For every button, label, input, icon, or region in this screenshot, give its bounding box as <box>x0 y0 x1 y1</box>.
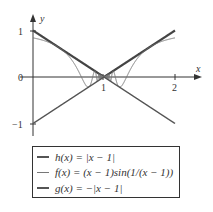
legend-item-g: g(x) = −|x − 1| <box>37 180 175 196</box>
legend-swatch-g <box>37 187 49 189</box>
y-tick-0: 0 <box>18 72 23 83</box>
x-axis-label: x <box>195 63 201 74</box>
x-tick-2: 2 <box>172 82 177 93</box>
f-curve <box>33 38 175 87</box>
chart-legend: h(x) = |x − 1| f(x) = (x − 1)sin(1/(x − … <box>32 146 180 198</box>
legend-swatch-h <box>37 156 49 158</box>
chart-plot-area: y x 1 2 1 0 −1 <box>0 0 213 145</box>
h-curve <box>33 31 175 78</box>
legend-item-f: f(x) = (x − 1)sin(1/(x − 1)) <box>37 165 175 181</box>
legend-item-h: h(x) = |x − 1| <box>37 149 175 165</box>
y-axis-label: y <box>39 13 45 24</box>
y-tick-minus1: −1 <box>12 119 23 130</box>
legend-swatch-f <box>37 172 49 173</box>
x-tick-1: 1 <box>101 82 106 93</box>
y-axis-arrow-icon <box>30 14 36 22</box>
y-tick-1: 1 <box>18 26 23 37</box>
x-axis-arrow-icon <box>194 74 202 80</box>
